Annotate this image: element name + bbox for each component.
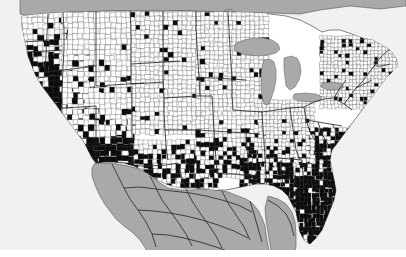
county-cell [200, 59, 206, 64]
county-cell [227, 151, 232, 155]
county-cell [186, 140, 190, 145]
county-cell [298, 119, 302, 124]
county-cell [231, 160, 236, 164]
county-cell [83, 50, 89, 55]
county-cell [131, 79, 136, 83]
county-cell [285, 163, 289, 168]
county-cell [385, 58, 389, 61]
county-cell [259, 25, 265, 29]
county-cell [227, 107, 231, 111]
county-cell [99, 77, 105, 83]
county-cell [157, 154, 161, 160]
county-cell [99, 125, 105, 130]
county-cell [315, 128, 319, 133]
county-cell [360, 105, 363, 110]
county-cell [281, 171, 285, 175]
county-cell [135, 102, 140, 106]
county-cell [146, 66, 150, 70]
county-cell [290, 184, 294, 188]
county-cell [290, 103, 295, 107]
county-cell [164, 30, 169, 35]
county-cell [183, 70, 187, 75]
county-cell [177, 48, 181, 52]
county-cell [327, 93, 331, 97]
county-cell [316, 176, 320, 180]
county-cell [208, 183, 212, 187]
county-cell [213, 63, 217, 67]
county-cell [363, 47, 367, 50]
county-cell [240, 133, 245, 137]
county-cell [323, 36, 327, 39]
county-cell [187, 31, 191, 35]
county-cell [168, 89, 172, 93]
county-cell [303, 235, 307, 240]
county-cell [257, 138, 261, 142]
county-cell [187, 11, 193, 15]
county-cell [278, 146, 282, 150]
county-cell [182, 39, 186, 43]
county-cell [270, 104, 274, 108]
county-cell [154, 39, 158, 45]
county-cell [100, 23, 105, 29]
county-cell [308, 164, 312, 168]
county-cell [99, 66, 104, 71]
county-cell [374, 83, 378, 86]
county-cell [189, 179, 194, 183]
county-cell [168, 76, 172, 80]
county-cell [323, 171, 327, 176]
county-cell [178, 79, 182, 83]
county-cell [173, 39, 178, 43]
county-cell [116, 137, 123, 142]
county-cell [100, 109, 105, 115]
county-cell [285, 142, 289, 146]
county-cell [140, 102, 145, 107]
county-cell [83, 12, 88, 19]
county-cell [310, 104, 314, 108]
county-cell [252, 150, 257, 154]
bottom-crop-strip [0, 250, 406, 257]
county-cell [304, 231, 308, 235]
county-cell [168, 106, 173, 111]
county-cell [245, 63, 249, 68]
county-cell [312, 218, 316, 222]
county-cell [149, 130, 155, 135]
county-cell [290, 195, 294, 199]
county-cell [105, 12, 110, 18]
county-cell [371, 79, 376, 84]
county-cell [219, 160, 224, 164]
county-cell [356, 79, 360, 82]
county-cell [117, 143, 124, 150]
county-cell [270, 135, 274, 139]
county-cell [67, 12, 72, 17]
county-cell [173, 120, 178, 125]
county-cell [353, 100, 357, 104]
county-cell [375, 47, 379, 51]
county-cell [345, 71, 348, 75]
county-cell [364, 91, 368, 94]
county-cell [204, 124, 208, 129]
county-cell [100, 44, 105, 49]
county-cell [353, 97, 356, 100]
county-cell [237, 64, 241, 68]
county-cell [382, 57, 386, 60]
county-cell [312, 222, 316, 226]
county-cell [152, 140, 156, 144]
county-cell [49, 47, 54, 53]
county-cell [240, 29, 244, 33]
county-cell [78, 93, 83, 98]
county-cell [310, 155, 315, 159]
county-cell [154, 84, 159, 88]
county-cell [353, 35, 357, 40]
map-figure [0, 0, 406, 257]
county-cell [349, 82, 353, 86]
county-cell [214, 155, 219, 160]
county-cell [356, 40, 360, 43]
county-cell [389, 64, 393, 68]
county-cell [135, 107, 140, 111]
county-cell [94, 131, 101, 138]
county-cell [158, 107, 164, 111]
county-cell [150, 66, 155, 71]
county-cell [334, 54, 338, 58]
county-cell [367, 51, 370, 54]
county-cell [196, 169, 201, 174]
